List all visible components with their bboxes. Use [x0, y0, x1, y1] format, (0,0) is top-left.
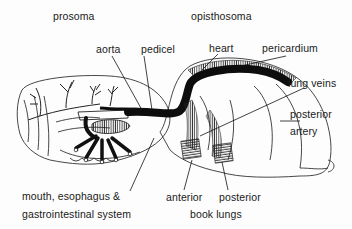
label-opisthosoma: opisthosoma [191, 10, 252, 22]
label-prosoma: prosoma [53, 10, 95, 22]
label-lung-veins: lung veins [288, 77, 336, 89]
label-anterior: anterior [166, 191, 202, 203]
label-heart: heart [209, 42, 233, 54]
label-pedicel: pedicel [141, 43, 175, 55]
diagram-canvas: prosoma opisthosoma aorta pedicel heart … [0, 0, 352, 229]
label-gastrointestinal: gastrointestinal system [22, 208, 131, 220]
book-lung-anterior [181, 139, 201, 159]
nerve-branches [28, 80, 118, 120]
book-lung-posterior [213, 143, 233, 163]
label-pericardium: pericardium [262, 42, 318, 54]
label-book-lungs: book lungs [190, 208, 242, 220]
label-aorta: aorta [96, 43, 120, 55]
label-posterior-artery-2: artery [290, 125, 317, 137]
label-posterior: posterior [219, 191, 261, 203]
label-mouth: mouth, esophagus & [22, 190, 120, 202]
label-posterior-artery-1: posterior [290, 108, 332, 120]
